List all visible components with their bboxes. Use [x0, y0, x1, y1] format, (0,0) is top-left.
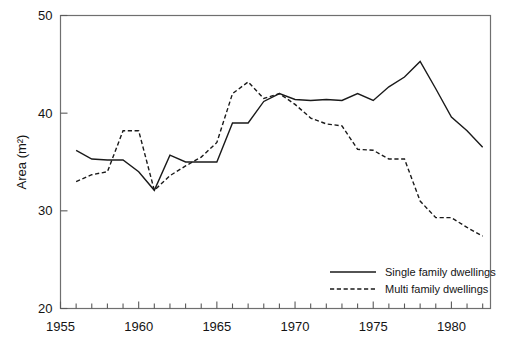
x-tick-label: 1965 — [202, 319, 231, 334]
x-tick-label: 1955 — [46, 319, 75, 334]
y-tick-label: 30 — [38, 203, 52, 218]
x-tick-label: 1970 — [281, 319, 310, 334]
x-tick-label: 1975 — [359, 319, 388, 334]
x-axis-ticks — [61, 302, 483, 309]
chart-legend: Single family dwellingsMulti family dwel… — [330, 266, 496, 295]
legend-label-multi-family: Multi family dwellings — [385, 283, 489, 295]
data-series-group — [76, 61, 483, 236]
series-line-multi-family — [76, 82, 483, 236]
series-line-single-family — [76, 61, 483, 190]
chart-container: 20304050 195519601965197019751980 Area (… — [0, 0, 506, 347]
x-tick-label: 1980 — [437, 319, 466, 334]
y-tick-label: 50 — [38, 8, 52, 23]
x-axis-tick-labels: 195519601965197019751980 — [46, 319, 466, 334]
y-axis-title: Area (m²) — [14, 135, 29, 190]
legend-label-single-family: Single family dwellings — [385, 266, 496, 278]
y-tick-label: 40 — [38, 106, 52, 121]
y-axis-ticks — [61, 16, 68, 309]
y-axis-tick-labels: 20304050 — [38, 8, 52, 316]
x-tick-label: 1960 — [124, 319, 153, 334]
y-tick-label: 20 — [38, 301, 52, 316]
line-chart: 20304050 195519601965197019751980 Area (… — [0, 0, 506, 347]
